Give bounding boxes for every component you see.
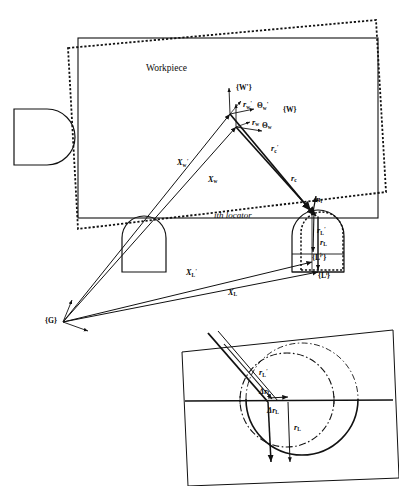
- vector-label-rc: rc: [291, 175, 297, 184]
- inset-label-delta-rL-upper: ΔrL: [259, 388, 271, 397]
- XL-prime-mark: ': [195, 267, 197, 274]
- figure-canvas: Workpiece ith locator {W'} {W} {Lⁱ'} {Lⁱ…: [0, 0, 399, 486]
- rc-sub: c: [294, 177, 296, 183]
- theta-prime-mark: ': [267, 100, 269, 107]
- inset-rLp-mark: ': [266, 367, 268, 374]
- frame-label-locator-nominal: {Lⁱ}: [318, 272, 330, 280]
- rw-prime-mark: ': [250, 99, 252, 106]
- XL-sub: L: [233, 291, 237, 297]
- vector-label-rc-prime: rc': [271, 144, 278, 154]
- inset-locator-nominal-arc: [246, 399, 358, 455]
- ni-sub: i: [321, 198, 323, 204]
- workpiece-label: Workpiece: [146, 64, 187, 74]
- theta-perturbed-label: Θw': [257, 101, 268, 111]
- vector-label-rw-prime: rw': [243, 100, 252, 110]
- frame-label-workpiece-nominal: {W}: [283, 106, 297, 114]
- detail-inset-frame: [182, 330, 399, 486]
- frame-label-locator-perturbed: {Lⁱ'}: [312, 254, 326, 262]
- rc-prime-mark: ': [277, 143, 279, 150]
- theta-nominal-label: Θw: [262, 122, 272, 131]
- locator-left: [14, 109, 75, 165]
- rLp-loc-mark: ': [324, 225, 326, 232]
- vector-rc: [236, 127, 316, 216]
- diagram-vector-layer: [0, 0, 399, 486]
- inset-label-rL-prime: rL': [259, 368, 268, 378]
- inset-horizontal-reference: [185, 400, 393, 401]
- frame-label-global: {G}: [45, 317, 57, 325]
- Xw-prime-mark: ': [186, 157, 188, 164]
- Xw-sub: w: [213, 178, 217, 184]
- vector-label-Xw: Xw: [208, 176, 217, 185]
- rL-loc-sub: L: [323, 241, 327, 247]
- workpiece-nominal-outline: [78, 38, 378, 218]
- vector-label-XL: XL: [228, 289, 237, 298]
- inset-rL-sub: L: [297, 426, 301, 432]
- vector-label-rw: rw: [252, 119, 259, 128]
- inset-label-rL: rL: [294, 424, 301, 433]
- ith-locator-label: ith locator: [214, 211, 252, 220]
- vector-label-Xw-prime: Xw': [177, 158, 188, 168]
- vector-label-ni: ni: [316, 196, 322, 205]
- theta-subscript: w: [268, 124, 272, 130]
- inset-label-delta-rL-lower: ΔrL: [267, 407, 279, 416]
- workpiece-perturbed-outline: [68, 20, 386, 229]
- inset-drLu-sub: L: [267, 390, 271, 396]
- inset-drLl-sub: L: [275, 409, 279, 415]
- locator-bottom-center: [122, 216, 166, 272]
- vector-label-XL-prime: XL': [186, 268, 197, 278]
- vector-label-rL-prime-locator: rL': [317, 226, 326, 236]
- frame-label-workpiece-perturbed: {W'}: [236, 84, 252, 92]
- rw-sub: w: [255, 121, 259, 127]
- vector-label-rL-locator: rL: [320, 239, 327, 248]
- global-frame-axes: [63, 300, 88, 331]
